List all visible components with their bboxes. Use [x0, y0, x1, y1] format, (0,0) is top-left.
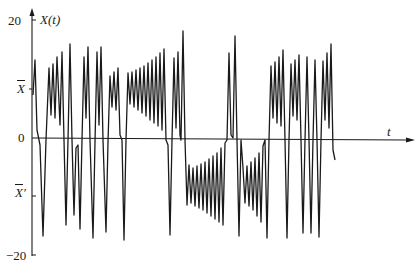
y-axis-label: X(t) [40, 13, 60, 26]
tick-label-0: 0 [18, 131, 25, 144]
y-axis-arrow-icon [30, 8, 35, 16]
tick-label-neg20: −20 [6, 249, 26, 262]
x-axis-label: t [387, 125, 391, 138]
tick-label-xbar: X [17, 82, 25, 95]
tick-label-20: 20 [8, 14, 21, 27]
x-axis [32, 138, 408, 140]
tick-label-xbar-prime: X′ [15, 186, 26, 199]
tick-label-xbar-prime-letter: X [15, 185, 23, 200]
x-axis-arrow-icon [406, 138, 415, 143]
tick-label-prime-mark: ′ [23, 185, 26, 200]
waveform-line [33, 31, 335, 240]
chart-canvas [0, 0, 417, 265]
